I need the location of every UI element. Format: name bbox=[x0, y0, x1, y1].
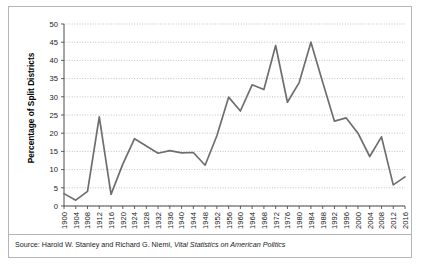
x-tick-label: 1984 bbox=[307, 212, 316, 229]
x-tick-label: 1920 bbox=[119, 212, 128, 229]
x-tick-label: 1940 bbox=[177, 212, 186, 229]
x-tick-label: 1964 bbox=[248, 212, 257, 229]
x-tick-label: 2016 bbox=[401, 212, 410, 229]
x-tick-label: 1948 bbox=[201, 212, 210, 229]
x-tick-label: 1916 bbox=[107, 212, 116, 229]
x-tick-label: 1912 bbox=[95, 212, 104, 229]
x-tick-label: 1928 bbox=[142, 212, 151, 229]
y-tick-label: 10 bbox=[50, 165, 58, 174]
y-tick-label: 45 bbox=[50, 38, 58, 47]
source-publication-title: Vital Statistics on American Politics bbox=[174, 240, 285, 249]
y-tick-label: 50 bbox=[50, 20, 58, 29]
y-tick-label: 15 bbox=[50, 147, 58, 156]
x-tick-label: 1924 bbox=[130, 212, 139, 229]
y-tick-label: 5 bbox=[54, 184, 58, 193]
x-tick-label: 1992 bbox=[330, 212, 339, 229]
x-tick-label: 1960 bbox=[236, 212, 245, 229]
x-tick-label: 1936 bbox=[166, 212, 175, 229]
y-tick-label: 0 bbox=[54, 202, 58, 211]
gridlines-group bbox=[64, 24, 405, 206]
data-series-line bbox=[64, 42, 405, 200]
x-tick-label: 1976 bbox=[283, 212, 292, 229]
y-tick-label: 35 bbox=[50, 74, 58, 83]
y-tick-label: 25 bbox=[50, 111, 58, 120]
axes-group bbox=[61, 24, 405, 209]
y-tick-label: 30 bbox=[50, 93, 58, 102]
x-tick-label: 1944 bbox=[189, 212, 198, 229]
source-bar: Source: Harold W. Stanley and Richard G.… bbox=[9, 234, 411, 257]
x-tick-label: 1932 bbox=[154, 212, 163, 229]
x-tick-label: 1988 bbox=[319, 212, 328, 229]
x-tick-labels-group: 1900190419081912191619201924192819321936… bbox=[60, 212, 410, 229]
x-tick-label: 1996 bbox=[342, 212, 351, 229]
chart-figure: Percentage of Split Districts 0510152025… bbox=[8, 6, 412, 258]
x-tick-label: 1908 bbox=[83, 212, 92, 229]
x-tick-label: 2012 bbox=[389, 212, 398, 229]
y-tick-label: 20 bbox=[50, 129, 58, 138]
x-tick-label: 1972 bbox=[272, 212, 281, 229]
x-tick-label: 2000 bbox=[354, 212, 363, 229]
y-tick-labels-group: 05101520253035404550 bbox=[50, 20, 58, 211]
x-tick-label: 2004 bbox=[366, 212, 375, 229]
x-tick-label: 1980 bbox=[295, 212, 304, 229]
source-text: Source: Harold W. Stanley and Richard G.… bbox=[15, 240, 285, 249]
x-tick-label: 2008 bbox=[377, 212, 386, 229]
x-tick-label: 1900 bbox=[60, 212, 69, 229]
y-axis-label: Percentage of Split Districts bbox=[26, 23, 36, 193]
source-prefix: Source: Harold W. Stanley and Richard G.… bbox=[15, 240, 174, 249]
line-chart-svg: 05101520253035404550 1900190419081912191… bbox=[9, 7, 411, 235]
x-tick-label: 1968 bbox=[260, 212, 269, 229]
chart-plot-area: Percentage of Split Districts 0510152025… bbox=[9, 7, 411, 235]
x-tick-label: 1904 bbox=[72, 212, 81, 229]
x-tick-label: 1952 bbox=[213, 212, 222, 229]
y-tick-label: 40 bbox=[50, 56, 58, 65]
x-tick-label: 1956 bbox=[225, 212, 234, 229]
